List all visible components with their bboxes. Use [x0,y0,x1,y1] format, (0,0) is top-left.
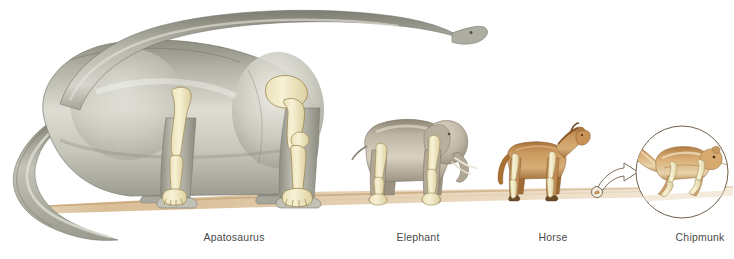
magnify-arrow-icon [598,163,638,190]
chipmunk-callout [592,126,731,218]
label-chipmunk: Chipmunk [676,231,725,243]
chipmunk-magnifier-circle [630,126,730,218]
illustration-canvas: Apatosaurus Elephant Horse Chipmunk [0,0,734,259]
animal-size-comparison-illustration [0,0,734,259]
label-apatosaurus: Apatosaurus [203,231,264,243]
label-horse: Horse [538,231,567,243]
label-elephant: Elephant [396,231,439,243]
